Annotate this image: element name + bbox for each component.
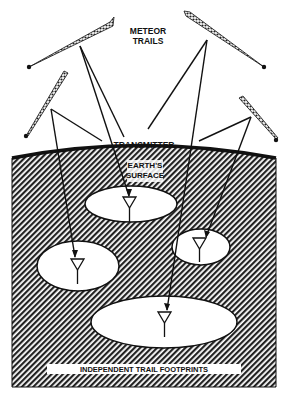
earth-surface-label: SURFACE [126, 171, 165, 180]
transmitter-label: TRANSMITTER [114, 140, 175, 150]
meteor-trails-label: METEOR [130, 26, 166, 36]
meteor-trails-label: TRAILS [133, 36, 164, 46]
meteor-trail-icon [27, 17, 114, 69]
meteor-trail-icon [24, 71, 68, 138]
meteor-trail-icon [184, 11, 266, 69]
earth-surface-label: EARTH'S [128, 161, 163, 170]
footprints-label: INDEPENDENT TRAIL FOOTPRINTS [80, 365, 208, 374]
meteor-burst-diagram: METEOR TRAILS TRANSMITTER EARTH'S SURFAC… [0, 0, 289, 399]
